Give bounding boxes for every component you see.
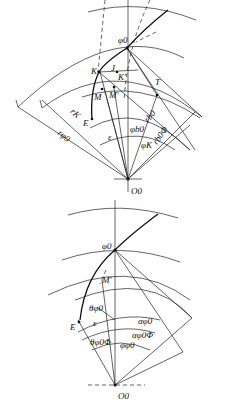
arc-mid — [48, 276, 190, 300]
radial-line — [78, 320, 115, 385]
point-M-prime — [113, 86, 116, 89]
involute-curve — [92, 10, 168, 120]
label-phi-phi0: φφ0 — [120, 340, 135, 350]
point-E — [78, 321, 81, 324]
label-phi-b0: φb0 — [130, 124, 144, 134]
label-alpha-phi0phi: αφ0Φ — [132, 330, 153, 340]
label-O0: O0 — [118, 391, 129, 401]
label-phi0: φ0 — [118, 35, 128, 45]
arc-r-k — [42, 81, 202, 117]
label-M: M — [93, 92, 102, 102]
top-diagram: φ0 K J K' M M' T E rφ0 rK φb0 rb0 rb0Φ ε… — [16, 0, 202, 196]
label-theta-phi0phi: θφ0Φ — [90, 337, 111, 347]
label-K-prime: K' — [117, 72, 127, 82]
bottom-diagram: φ0 M' θφ0 E ε αφ0 αφ0Φ θφ0Φ φφ0 O0 — [48, 200, 192, 401]
dim-tick — [16, 100, 18, 107]
label-r-K: rK — [69, 106, 83, 120]
tangent-line-K — [99, 72, 190, 150]
radial-line — [42, 100, 128, 179]
label-r-b0phi: rb0Φ — [150, 124, 169, 146]
point-E — [91, 118, 94, 121]
point-phi0 — [113, 248, 116, 251]
label-phi-K: φK — [141, 140, 153, 150]
label-phi0: φ0 — [102, 241, 112, 251]
dashed-tangent — [136, 32, 156, 42]
point-T — [156, 94, 159, 97]
radial-line — [115, 352, 183, 385]
label-r-phi0: rφ0 — [56, 128, 73, 144]
point-K — [97, 70, 100, 73]
point-O0 — [113, 383, 116, 386]
label-O0: O0 — [131, 186, 142, 196]
arc-phi0 — [62, 250, 180, 262]
label-M-prime: M' — [108, 90, 119, 100]
radial-line — [115, 318, 192, 385]
tangent-line — [127, 48, 202, 117]
label-E: E — [69, 322, 76, 332]
label-alpha-phi0: αφ0 — [138, 316, 153, 326]
radial-line — [102, 280, 115, 385]
dashed-profile-left — [98, 0, 105, 72]
label-K: K — [90, 66, 98, 76]
label-M-prime: M' — [101, 275, 112, 285]
label-E: E — [82, 118, 89, 128]
label-theta-phi0: θφ0 — [89, 303, 103, 313]
point-M — [101, 88, 104, 91]
dim-tick — [40, 100, 42, 108]
outer-arc — [68, 208, 178, 218]
gear-geometry-diagram: φ0 K J K' M M' T E rφ0 rK φb0 rb0 rb0Φ ε… — [0, 0, 246, 404]
label-epsilon: ε — [108, 132, 112, 142]
point-phi0 — [125, 46, 128, 49]
point-O0 — [126, 177, 129, 180]
label-epsilon: ε — [93, 318, 97, 328]
